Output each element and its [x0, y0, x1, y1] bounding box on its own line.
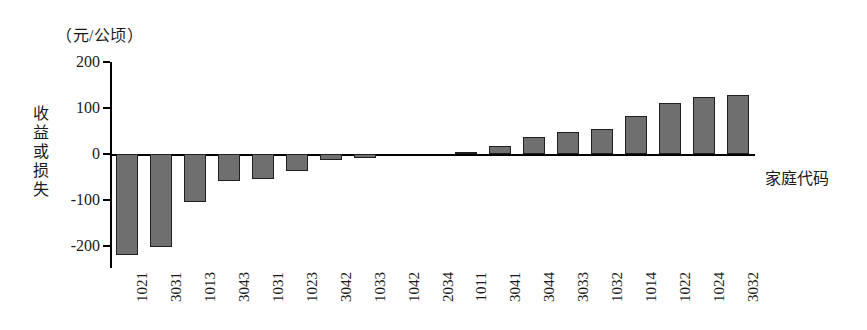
- bar: [625, 116, 647, 154]
- bar: [489, 146, 511, 154]
- y-tick-200: [103, 61, 110, 63]
- y-tick-100: [103, 107, 110, 109]
- x-tick-label: 1021: [134, 272, 151, 302]
- bar: [455, 152, 477, 154]
- y-tick-0: [103, 153, 110, 155]
- x-tick-label: 2034: [440, 272, 457, 302]
- x-tick-label: 1042: [406, 272, 423, 302]
- y-tick-label: -200: [71, 237, 100, 255]
- x-tick-label-wrap: 3044: [541, 272, 558, 302]
- bar-slot: [619, 62, 653, 268]
- plot-area: 2001000-100-200: [110, 62, 755, 268]
- bar: [320, 154, 342, 160]
- x-tick-label-wrap: 1022: [677, 272, 694, 302]
- x-tick-label-wrap: 1031: [270, 272, 287, 302]
- x-tick-label-wrap: 1032: [609, 272, 626, 302]
- x-tick-label-wrap: 2034: [440, 272, 457, 302]
- bar-slot: [483, 62, 517, 268]
- bar-slot: [144, 62, 178, 268]
- bar-slot: [280, 62, 314, 268]
- bar-slot: [653, 62, 687, 268]
- x-tick-label: 3042: [338, 272, 355, 302]
- x-tick-label: 1024: [711, 272, 728, 302]
- bar: [523, 137, 545, 154]
- bar-slot: [449, 62, 483, 268]
- bar-slot: [212, 62, 246, 268]
- bar-slot: [178, 62, 212, 268]
- x-tick-label-wrap: 3033: [575, 272, 592, 302]
- x-tick-label-wrap: 3032: [745, 272, 762, 302]
- y-tick-label: 0: [92, 145, 100, 163]
- y-tick--100: [103, 199, 110, 201]
- x-tick-label: 3032: [745, 272, 762, 302]
- x-tick-label-wrap: 1013: [202, 272, 219, 302]
- x-tick-label-wrap: 1023: [304, 272, 321, 302]
- y-tick--200: [103, 245, 110, 247]
- bar: [591, 129, 613, 154]
- x-tick-label-wrap: 3031: [168, 272, 185, 302]
- x-tick-label: 1031: [270, 272, 287, 302]
- x-tick-label-wrap: 1033: [372, 272, 389, 302]
- x-tick-label: 1011: [473, 272, 490, 301]
- bar: [116, 154, 138, 255]
- x-tick-label-wrap: 3042: [338, 272, 355, 302]
- bar: [150, 154, 172, 247]
- x-tick-label: 3033: [575, 272, 592, 302]
- bar: [252, 154, 274, 179]
- bar: [184, 154, 206, 202]
- x-axis-title: 家庭代码: [765, 165, 829, 189]
- x-tick-label: 1033: [372, 272, 389, 302]
- y-tick-label: 100: [76, 99, 100, 117]
- y-axis-title: 收益或损失: [31, 104, 50, 199]
- x-tick-label: 3044: [541, 272, 558, 302]
- x-tick-label: 1023: [304, 272, 321, 302]
- bar-slot: [246, 62, 280, 268]
- bar-slot: [382, 62, 416, 268]
- bar: [354, 154, 376, 158]
- bar-slot: [416, 62, 450, 268]
- x-tick-label: 1014: [643, 272, 660, 302]
- x-tick-label-wrap: 3041: [507, 272, 524, 302]
- bar: [557, 132, 579, 154]
- bar-slot: [585, 62, 619, 268]
- bar-slot: [687, 62, 721, 268]
- y-axis-unit-caption: （元/公顷）: [56, 22, 143, 46]
- x-tick-label: 3031: [168, 272, 185, 302]
- x-tick-label: 1022: [677, 272, 694, 302]
- y-tick-label: 200: [76, 53, 100, 71]
- bar: [286, 154, 308, 171]
- x-tick-label: 3043: [236, 272, 253, 302]
- x-tick-label: 3041: [507, 272, 524, 302]
- bar-slot: [314, 62, 348, 268]
- bar-slot: [348, 62, 382, 268]
- y-tick-label: -100: [71, 191, 100, 209]
- x-tick-label-wrap: 1011: [473, 272, 490, 301]
- x-tick-label-wrap: 3043: [236, 272, 253, 302]
- x-tick-label-wrap: 1024: [711, 272, 728, 302]
- bar-slot: [110, 62, 144, 268]
- x-tick-label: 1032: [609, 272, 626, 302]
- bar: [218, 154, 240, 181]
- bar-chart: （元/公顷） 收益或损失 家庭代码 2001000-100-200 102130…: [0, 0, 867, 330]
- bar: [693, 97, 715, 155]
- bar-slot: [551, 62, 585, 268]
- bar-series: [110, 62, 755, 268]
- bar-slot: [721, 62, 755, 268]
- x-tick-label-wrap: 1021: [134, 272, 151, 302]
- x-tick-label: 1013: [202, 272, 219, 302]
- x-tick-label-wrap: 1014: [643, 272, 660, 302]
- x-tick-label-wrap: 1042: [406, 272, 423, 302]
- bar: [659, 103, 681, 154]
- bar-slot: [517, 62, 551, 268]
- bar: [727, 95, 749, 154]
- x-axis-tick-labels: 1021303110133043103110233042103310422034…: [110, 272, 755, 330]
